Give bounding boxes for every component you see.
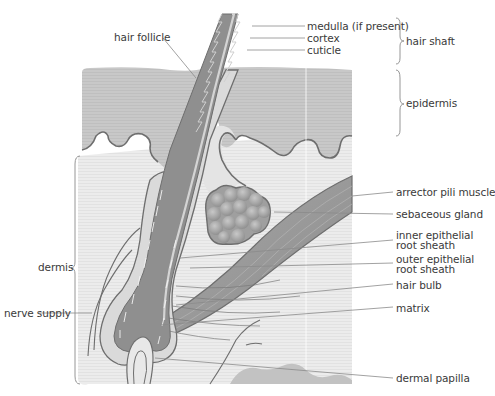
label-matrix: matrix	[396, 303, 430, 313]
label-medulla: medulla (if present)	[307, 21, 409, 31]
label-arrector-pili-muscle: arrector pili muscle	[396, 187, 495, 197]
label-hair-follicle: hair follicle	[114, 32, 170, 42]
label-hair-shaft: hair shaft	[406, 36, 455, 46]
label-dermis: dermis	[38, 262, 73, 272]
label-sebaceous-gland: sebaceous gland	[396, 209, 483, 219]
label-nerve-supply: nerve supply	[4, 308, 71, 318]
label-inner-root-sheath-2: root sheath	[396, 240, 455, 250]
label-outer-root-sheath-2: root sheath	[396, 264, 455, 274]
label-epidermis: epidermis	[406, 98, 457, 108]
label-hair-bulb: hair bulb	[396, 280, 442, 290]
label-cortex: cortex	[307, 33, 340, 43]
label-dermal-papilla: dermal papilla	[396, 373, 470, 383]
label-cuticle: cuticle	[307, 45, 341, 55]
epidermis-brace	[396, 70, 404, 136]
